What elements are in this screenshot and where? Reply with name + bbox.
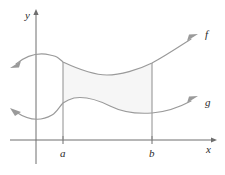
- curve-f: [16, 39, 191, 75]
- x-axis-label: x: [206, 144, 211, 155]
- curve-g-label: g: [205, 97, 211, 108]
- y-axis-arrowhead: [33, 9, 38, 15]
- tick-label-b: b: [149, 148, 155, 159]
- tick-label-a: a: [60, 148, 66, 159]
- curve-f-right-arrowhead: [187, 34, 198, 41]
- curve-g-right-arrowhead: [187, 96, 198, 103]
- curve-g-left-arrowhead: [10, 108, 21, 116]
- shaded-region-between-curves: [63, 62, 152, 113]
- curve-f-label: f: [205, 29, 208, 40]
- x-axis-arrowhead: [211, 137, 217, 142]
- y-axis-label: y: [25, 10, 30, 21]
- figure-canvas: [0, 0, 225, 175]
- area-between-curves-figure: y x f g a b: [0, 0, 225, 175]
